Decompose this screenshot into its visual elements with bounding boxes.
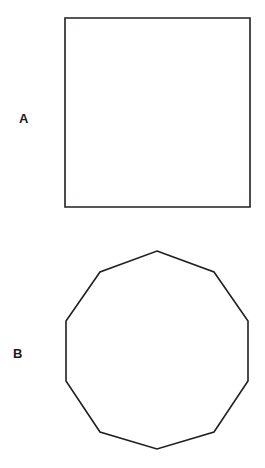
shape-decagon-b bbox=[66, 251, 248, 449]
shapes-canvas bbox=[0, 0, 265, 468]
figure-container: A B bbox=[0, 0, 265, 468]
shape-square-a bbox=[65, 18, 250, 207]
panel-label-b: B bbox=[13, 347, 23, 360]
panel-label-a: A bbox=[19, 112, 29, 125]
